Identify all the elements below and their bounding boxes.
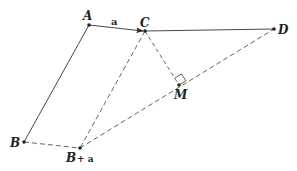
point-a [87, 23, 91, 27]
segment-c-ba [80, 31, 145, 148]
label-c: C [140, 16, 150, 30]
segment-b-ba [24, 142, 80, 148]
segment-ab [24, 25, 89, 142]
segment-cm [145, 31, 179, 85]
point-b [22, 140, 26, 144]
label-b: B [9, 136, 20, 150]
point-m [177, 83, 181, 87]
label-m: M [173, 88, 188, 102]
label-b-plus-a-base: B [65, 151, 76, 165]
segment-cd [145, 29, 274, 31]
point-d [272, 27, 276, 31]
point-b-plus-a [78, 146, 82, 150]
label-b-plus-a-suffix: + a [77, 154, 94, 164]
label-a: A [82, 9, 92, 23]
label-vector-a: a [111, 16, 118, 27]
right-angle-marker [175, 74, 186, 85]
geometry-diagram: A a C D B B + a M [0, 0, 297, 171]
label-d: D [277, 23, 289, 37]
